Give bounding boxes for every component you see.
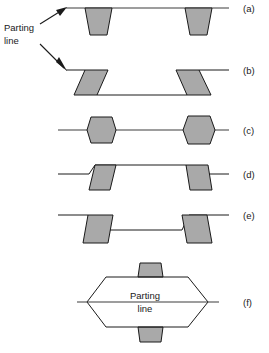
row-c-boss-left <box>87 117 116 143</box>
callout-arrow-to-row-a <box>40 7 67 24</box>
row-c-group <box>58 116 229 144</box>
row-a-cavity-right <box>185 8 212 35</box>
callout-arrow-b-head <box>56 57 67 71</box>
figure-canvas: Parting line Parting line (a) (b) (c) (d… <box>0 0 269 353</box>
row-label-d: (d) <box>243 169 255 180</box>
row-d-rib-right <box>186 165 212 190</box>
row-f-boss-bottom <box>138 327 163 342</box>
row-label-e: (e) <box>243 210 255 221</box>
row-f-inner-label-line-1: Parting <box>130 290 160 301</box>
row-labels-group: (a) (b) (c) (d) (e) (f) <box>243 3 255 308</box>
parting-line-figure: Parting line Parting line (a) (b) (c) (d… <box>0 0 269 353</box>
row-c-boss-right <box>183 116 215 144</box>
row-b-wall-left <box>74 70 108 95</box>
callout-arrow-a-head <box>56 7 67 16</box>
row-a-group <box>66 8 229 35</box>
row-label-b: (b) <box>243 65 255 76</box>
callout-label-line-2: line <box>4 35 19 46</box>
row-e-wall-left <box>83 215 113 243</box>
row-f-group: Parting line <box>77 263 219 342</box>
row-f-inner-label-line-2: line <box>138 303 153 314</box>
callout-label-line-1: Parting <box>4 22 34 33</box>
row-d-group <box>58 165 229 190</box>
row-e-group <box>58 215 229 243</box>
parting-line-callout: Parting line <box>4 7 67 71</box>
row-label-a: (a) <box>243 3 255 14</box>
callout-arrow-to-row-b <box>40 44 67 71</box>
row-b-wall-right <box>176 70 211 95</box>
row-label-f: (f) <box>243 297 252 308</box>
row-label-c: (c) <box>243 125 254 136</box>
row-b-group <box>66 70 229 95</box>
row-e-wall-right <box>182 215 212 243</box>
row-a-cavity-left <box>85 8 112 35</box>
row-f-boss-top <box>138 263 163 277</box>
